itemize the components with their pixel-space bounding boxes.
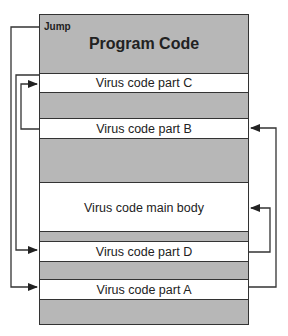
flow-arrows: [0, 0, 288, 336]
arrow-jump-to-a: [11, 27, 39, 287]
arrow-b-to-c: [21, 84, 39, 129]
arrow-c-to-d: [16, 75, 39, 250]
arrow-d-to-main: [249, 208, 270, 252]
